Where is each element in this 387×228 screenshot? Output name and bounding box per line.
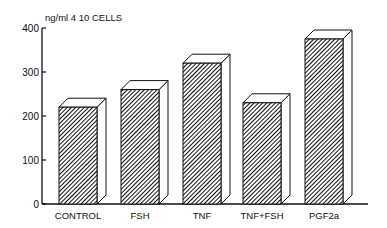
y-tick-label: 200 (22, 111, 39, 122)
bars (59, 30, 352, 204)
bar-tnf-fsh (243, 94, 290, 204)
bar-pgf2a (305, 30, 352, 204)
x-tick-label: TNF+FSH (240, 210, 283, 221)
x-tick-label: FSH (131, 210, 150, 221)
x-tick-label: PGF2a (309, 210, 340, 221)
y-tick-label: 0 (33, 199, 39, 210)
bar-chart: 0100200300400ng/ml 4 10 CELLSCONTROLFSHT… (0, 0, 387, 228)
y-tick-label: 100 (22, 155, 39, 166)
y-tick-label: 300 (22, 67, 39, 78)
bar-tnf (183, 54, 230, 204)
bar-fsh (121, 81, 168, 204)
bar-control (59, 98, 106, 204)
y-tick-label: 400 (22, 23, 39, 34)
x-tick-label: TNF (193, 210, 212, 221)
x-tick-label: CONTROL (55, 210, 101, 221)
y-axis-label: ng/ml 4 10 CELLS (45, 12, 122, 23)
